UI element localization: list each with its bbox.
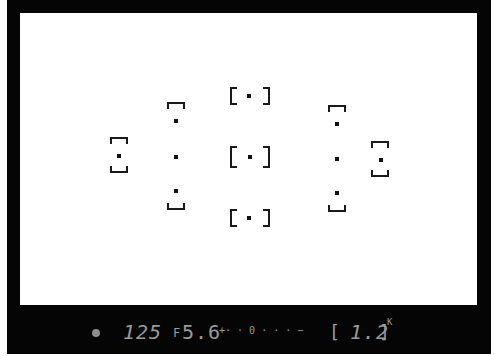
frames-suffix: K (387, 317, 393, 327)
status-bar: 125 F 5.6 +· · 0 · · · − [ 1.2 ] K (7, 305, 491, 354)
exposure-scale: +· · 0 · · · − (219, 325, 303, 336)
af-point-right-outer[interactable] (371, 141, 391, 177)
af-point-center[interactable] (230, 146, 270, 168)
aperture-value: 5.6 (182, 320, 221, 344)
focus-confirm-icon (92, 329, 100, 337)
viewfinder-frame: 125 F 5.6 +· · 0 · · · − [ 1.2 ] K (7, 0, 491, 354)
af-dot (248, 155, 252, 159)
af-dot (174, 119, 178, 123)
af-dot (335, 122, 339, 126)
af-dot (117, 154, 121, 158)
af-point-center-top[interactable] (230, 87, 270, 105)
aperture-prefix: F (173, 326, 181, 340)
af-dot (247, 94, 251, 98)
shutter-speed: 125 (123, 320, 162, 344)
af-point-right-inner[interactable] (327, 105, 347, 213)
af-point-left-inner[interactable] (166, 102, 186, 210)
af-dot (335, 157, 339, 161)
af-point-center-bottom[interactable] (230, 209, 270, 227)
af-point-left-outer[interactable] (110, 137, 130, 173)
af-dot (379, 158, 383, 162)
viewfinder-screen (20, 13, 477, 305)
af-dot (174, 155, 178, 159)
af-dot (335, 191, 339, 195)
af-dot (247, 216, 251, 220)
af-dot (174, 189, 178, 193)
bracket-indicator: [ (329, 321, 341, 342)
